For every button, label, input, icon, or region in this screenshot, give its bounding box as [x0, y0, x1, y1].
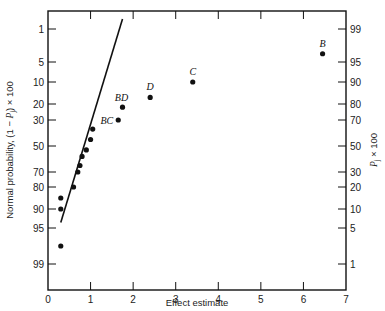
point-label: D: [146, 81, 155, 92]
x-tick-label: 6: [301, 294, 307, 305]
data-point: [90, 127, 95, 132]
point-label: C: [189, 66, 196, 77]
data-point: [88, 137, 93, 142]
x-tick-label: 1: [88, 294, 94, 305]
x-tick-label: 2: [130, 294, 136, 305]
data-point: [84, 147, 89, 152]
point-label: B: [320, 38, 326, 49]
data-points: BCBDDCB: [58, 38, 325, 249]
data-point: [120, 105, 125, 110]
data-point: [58, 243, 63, 248]
y-right-tick-label: 10: [350, 204, 362, 215]
y-left-tick-label: 50: [33, 141, 45, 152]
data-point: [320, 51, 325, 56]
y-right-tick-label: 20: [350, 182, 362, 193]
y-left-tick-label: 95: [33, 223, 45, 234]
y-left-tick-label: 70: [33, 167, 45, 178]
data-point: [77, 163, 82, 168]
y-left-tick-label: 5: [38, 57, 44, 68]
data-point: [116, 117, 121, 122]
y-left-tick-label: 30: [33, 115, 45, 126]
y-left-tick-label: 10: [33, 77, 45, 88]
data-point: [148, 95, 153, 100]
y-left-tick-label: 1: [38, 24, 44, 35]
data-point: [75, 169, 80, 174]
y-right-tick-label: 30: [350, 167, 362, 178]
data-point: [58, 206, 63, 211]
plot-frame: [48, 11, 346, 290]
y-left-tick-label: 20: [33, 99, 45, 110]
y-right-tick-label: 1: [350, 259, 356, 270]
y-axis-right-title: Pj × 100: [368, 133, 381, 168]
y-axis-left-title: Normal probability, (1 − Pj) × 100: [4, 81, 17, 219]
y-right-tick-label: 90: [350, 77, 362, 88]
y-right-tick-label: 99: [350, 24, 362, 35]
point-label: BC: [100, 115, 113, 126]
y-right-tick-label: 70: [350, 115, 362, 126]
x-axis-ticks: 01234567: [45, 11, 349, 305]
y-axis-right-ticks: 99959080705030201051: [338, 24, 362, 270]
normal-probability-plot: 01234567 15102030507080909599 9995908070…: [0, 0, 385, 311]
data-point: [71, 184, 76, 189]
y-right-tick-label: 80: [350, 99, 362, 110]
y-right-tick-label: 5: [350, 223, 356, 234]
y-left-tick-label: 80: [33, 182, 45, 193]
y-axis-left-ticks: 15102030507080909599: [33, 24, 56, 270]
point-label: BD: [115, 92, 129, 103]
y-right-tick-label: 50: [350, 141, 362, 152]
x-axis-title: Effect estimate: [166, 297, 229, 308]
x-tick-label: 5: [258, 294, 264, 305]
y-left-tick-label: 90: [33, 204, 45, 215]
data-point: [58, 195, 63, 200]
x-tick-label: 0: [45, 294, 51, 305]
data-point: [190, 79, 195, 84]
data-point: [79, 154, 84, 159]
x-tick-label: 7: [343, 294, 349, 305]
y-left-tick-label: 99: [33, 259, 45, 270]
y-right-tick-label: 95: [350, 57, 362, 68]
